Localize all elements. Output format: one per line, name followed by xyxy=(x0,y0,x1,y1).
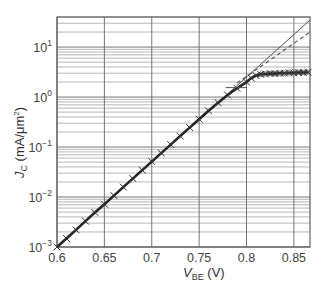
x-tick-label: 0.6 xyxy=(48,251,65,265)
x-marker xyxy=(177,133,184,140)
x-axis-ticks: 0.60.650.70.750.80.85 xyxy=(48,251,306,265)
x-marker xyxy=(158,150,165,157)
x-marker xyxy=(129,175,136,182)
minor-gridlines xyxy=(57,17,310,232)
y-tick-label: 10−2 xyxy=(28,188,52,205)
x-marker xyxy=(92,209,99,216)
x-tick-label: 0.8 xyxy=(238,251,255,265)
x-marker xyxy=(186,124,193,131)
x-marker xyxy=(139,167,146,174)
y-tick-label: 101 xyxy=(33,38,52,55)
x-tick-label: 0.7 xyxy=(143,251,160,265)
x-marker xyxy=(110,192,117,199)
y-tick-label: 10−1 xyxy=(28,138,52,155)
x-marker xyxy=(305,69,312,76)
x-tick-label: 0.65 xyxy=(92,251,116,265)
x-tick-label: 0.85 xyxy=(282,251,306,265)
y-tick-label: 100 xyxy=(33,88,52,105)
measured-line xyxy=(57,72,308,247)
y-axis-ticks: 10110010−110−210−3 xyxy=(28,38,52,255)
x-tick-label: 0.75 xyxy=(187,251,211,265)
y-axis-label: JC (mA/μm2) xyxy=(12,107,29,179)
chart: 0.60.650.70.750.80.85 10110010−110−210−3… xyxy=(0,0,328,295)
x-marker xyxy=(63,235,70,242)
x-marker xyxy=(120,184,127,191)
x-axis-label: VBE (V) xyxy=(183,265,225,282)
